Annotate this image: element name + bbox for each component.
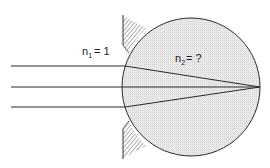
label-n1: n1= 1 <box>82 45 110 59</box>
label-n2: n2= ? <box>175 52 202 66</box>
refraction-diagram: n1= 1 n2= ? <box>0 0 270 168</box>
